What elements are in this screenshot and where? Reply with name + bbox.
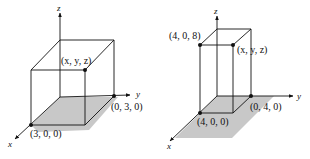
z-axis-label: z bbox=[56, 3, 61, 13]
point-300-label: (3, 0, 0) bbox=[30, 128, 62, 140]
figure-cube: z y x (x, y, z) (0, 3, 0) (3, 0, 0) bbox=[7, 3, 143, 149]
point-040-label: (0, 4, 0) bbox=[250, 101, 282, 113]
point-300 bbox=[29, 123, 33, 127]
point-400-label: (4, 0, 0) bbox=[197, 116, 229, 128]
z-axis-label: z bbox=[213, 6, 218, 16]
point-408-label: (4, 0, 8) bbox=[169, 30, 201, 42]
point-xyz bbox=[83, 68, 87, 72]
point-xyz-label: (x, y, z) bbox=[61, 55, 91, 67]
point-408 bbox=[198, 43, 202, 47]
point-040 bbox=[249, 94, 253, 98]
point-xyz-label: (x, y, z) bbox=[237, 44, 267, 56]
point-xyz bbox=[231, 43, 235, 47]
xy-plane-shading bbox=[31, 97, 118, 132]
y-axis-label: y bbox=[296, 91, 301, 101]
point-030 bbox=[112, 94, 116, 98]
y-axis bbox=[60, 95, 130, 97]
diagram-canvas: z y x (x, y, z) (0, 3, 0) (3, 0, 0) z y … bbox=[0, 0, 310, 159]
x-axis-label: x bbox=[7, 139, 12, 149]
point-030-label: (0, 3, 0) bbox=[111, 101, 143, 113]
point-400 bbox=[198, 111, 202, 115]
figure-rectangular-box: z y x (4, 0, 8) (x, y, z) (0, 4, 0) (4, … bbox=[166, 6, 301, 151]
x-axis-label: x bbox=[166, 141, 171, 151]
y-axis-label: y bbox=[135, 89, 140, 99]
